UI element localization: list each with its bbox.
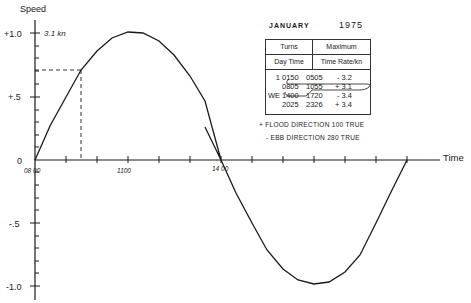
header-turns: Turns (266, 40, 313, 54)
table-subheader-row: Day Time Time Rate/kn (266, 55, 370, 70)
tide-table: Turns Maximum Day Time Time Rate/kn 1 01… (265, 39, 371, 115)
header-maximum: Maximum (313, 40, 370, 54)
subheader-time-rate: Time Rate/kn (313, 55, 370, 69)
x-axis-title: Time (443, 152, 464, 163)
y-tick-label: 0 (17, 156, 22, 166)
table-header-row: Turns Maximum (266, 40, 370, 55)
max-speed-annotation: 3.1 kn (44, 29, 66, 38)
table-year: 1975 (339, 20, 363, 30)
x-tick-label-start: 08 00 (24, 167, 41, 174)
legend-flood: + FLOOD DIRECTION 100 TRUE (259, 121, 364, 128)
x-tick-label-1400: 14 00 (212, 165, 229, 172)
table-row: WE 1400 1720 - 3.4 (266, 91, 370, 100)
x-tick-label-1100: 1100 (117, 167, 131, 174)
table-row: 0805 1055 + 3.1 (266, 82, 370, 91)
legend-ebb: - EBB DIRECTION 280 TRUE (266, 134, 360, 141)
table-month: JANUARY (269, 22, 310, 29)
subheader-day-time: Day Time (266, 55, 313, 69)
y-tick-label: -1.0 (6, 282, 22, 292)
tidal-current-chart: Speed Time +1.0 +.5 0 -.5 -1.0 3.1 kn 08… (0, 0, 471, 303)
y-tick-label: +1.0 (4, 29, 22, 39)
y-tick-label: +.5 (8, 92, 21, 102)
table-row: 1 0150 0505 - 3.2 (266, 73, 370, 82)
y-axis-title: Speed (20, 4, 46, 14)
table-row: 2025 2326 + 3.4 (266, 100, 370, 109)
y-tick-label: -.5 (9, 219, 20, 229)
